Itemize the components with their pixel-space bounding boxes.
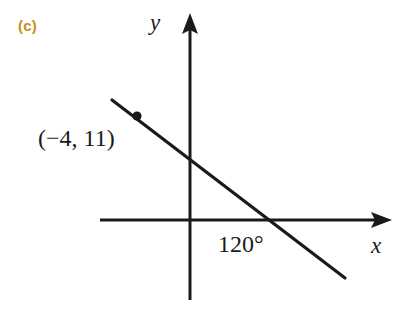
angle-label: 120°: [218, 231, 264, 257]
coordinate-plane-svg: y x (−4, 11) 120°: [0, 0, 401, 311]
point-coordinate-label: (−4, 11): [38, 125, 115, 151]
figure-canvas: (c) y x (−4, 11) 120°: [0, 0, 401, 311]
x-axis-label: x: [370, 233, 382, 258]
y-axis-label: y: [148, 10, 161, 35]
point-marker: [132, 111, 141, 120]
